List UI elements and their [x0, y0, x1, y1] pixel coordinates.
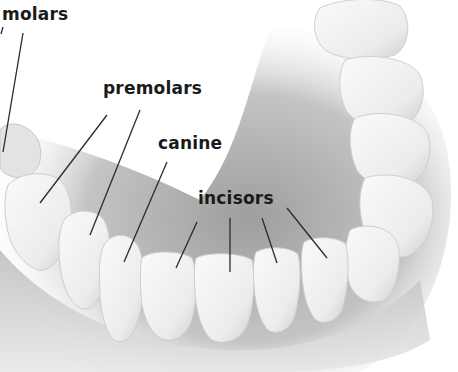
teeth-illustration — [0, 0, 458, 372]
incisors-label: incisors — [198, 190, 274, 207]
molars-leader-2 — [1, 27, 3, 34]
canine-label: canine — [158, 135, 222, 152]
molars-label: molars — [2, 6, 68, 23]
premolars-label: premolars — [103, 80, 202, 97]
teeth-diagram: molars premolars canine incisors — [0, 0, 458, 372]
